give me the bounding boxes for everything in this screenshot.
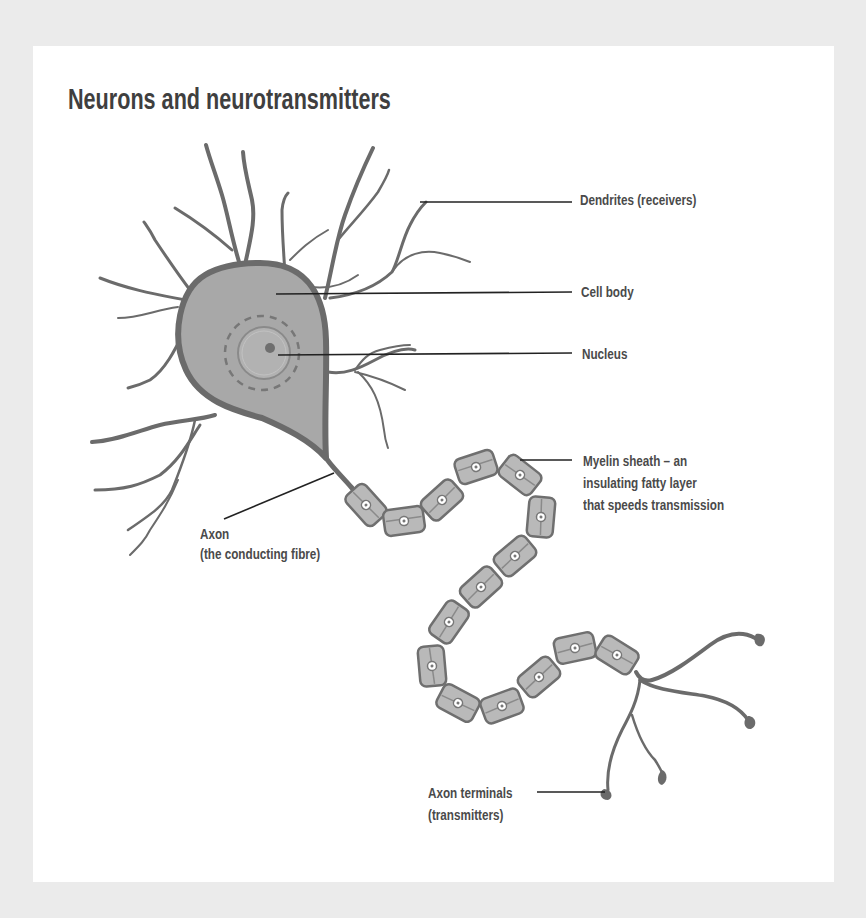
- myelin-sheath-label: Myelin sheath – an insulating fatty laye…: [583, 450, 724, 516]
- axon-label: Axon (the conducting fibre): [200, 524, 320, 564]
- neuron-illustration: [0, 0, 866, 918]
- cell-body-leader: [276, 292, 572, 294]
- axon-leader: [224, 473, 334, 519]
- dendrites-label: Dendrites (receivers): [580, 190, 696, 210]
- nucleus-label: Nucleus: [582, 344, 628, 364]
- cell-body-label: Cell body: [581, 282, 634, 302]
- axon-stem: [324, 455, 352, 488]
- axon-terminals-label: Axon terminals (transmitters): [428, 782, 513, 826]
